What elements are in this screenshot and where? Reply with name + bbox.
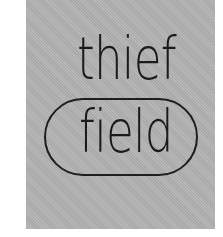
word-field: field: [79, 103, 173, 161]
word-thief: thief: [77, 30, 176, 88]
